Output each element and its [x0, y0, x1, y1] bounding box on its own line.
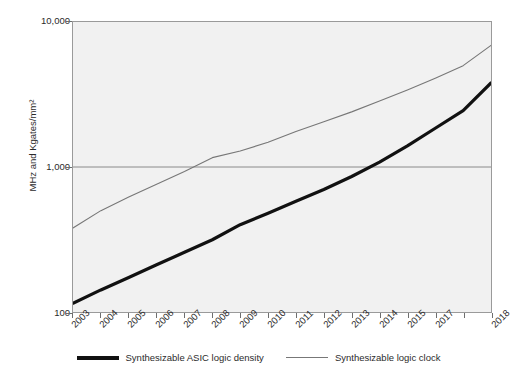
x-tick-label: 2011	[293, 308, 315, 330]
legend-line-swatch	[77, 356, 119, 360]
x-tick-label: 2014	[377, 307, 400, 330]
x-tick-label: 2018	[489, 307, 512, 330]
x-axis-ticks: 2003200420052006200720082009201020112012…	[0, 0, 517, 383]
x-tick-label: 2017	[433, 307, 456, 330]
x-tick-label: 2013	[349, 307, 372, 330]
x-tick-label: 2012	[321, 307, 344, 330]
x-tick-label: 2004	[97, 307, 120, 330]
x-tick-label: 2010	[265, 307, 288, 330]
logic-density-clock-chart: MHz and Kgates/mm² 10,0001,000100 200320…	[0, 0, 517, 383]
legend-entry: Synthesizable logic clock	[286, 352, 441, 363]
x-tick-label: 2005	[125, 307, 148, 330]
x-tick-mark	[464, 313, 465, 318]
chart-legend: Synthesizable ASIC logic densitySynthesi…	[0, 352, 517, 363]
legend-label: Synthesizable ASIC logic density	[126, 352, 264, 363]
x-tick-label: 2015	[405, 307, 428, 330]
legend-entry: Synthesizable ASIC logic density	[77, 352, 264, 363]
x-tick-label: 2008	[209, 307, 232, 330]
x-tick-label: 2003	[69, 307, 92, 330]
x-tick-label: 2006	[153, 307, 176, 330]
legend-label: Synthesizable logic clock	[335, 352, 441, 363]
legend-line-swatch	[286, 357, 328, 358]
x-tick-label: 2007	[181, 307, 204, 330]
x-tick-label: 2009	[237, 307, 260, 330]
